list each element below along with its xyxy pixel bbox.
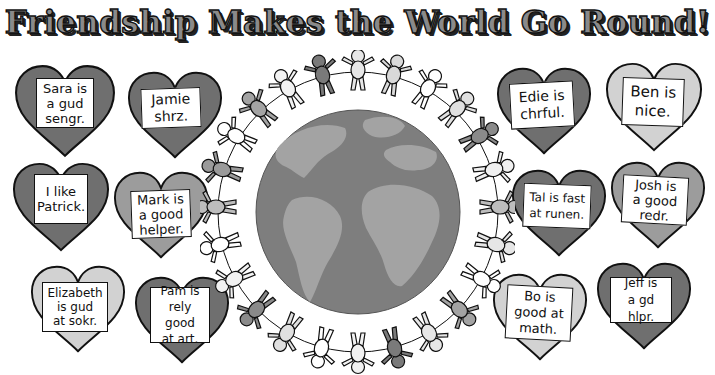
heart-elizabeth: Elizabeth is gud at sokr. — [30, 262, 126, 356]
note-card: Josh is a good redr. — [621, 174, 689, 225]
banner-title: Friendship Makes the World Go Round! — [0, 4, 715, 40]
note-card: Mark is a good helper. — [130, 189, 192, 239]
heart-josh: Josh is a good redr. — [610, 158, 706, 252]
note-card: Tal is fast at runen. — [522, 183, 591, 229]
note-card: Sara is a gud sengr. — [36, 78, 94, 128]
heart-ben: Ben is nice. — [605, 60, 703, 154]
heart-jeff: Jeff is a gd hlpr. — [596, 259, 692, 353]
globe-with-people — [200, 50, 515, 375]
heart-sara: Sara is a gud sengr. — [14, 64, 116, 158]
heart-tal: Tal is fast at runen. — [511, 166, 607, 260]
note-card: Edie is chrful. — [509, 80, 575, 129]
globe-icon — [200, 50, 515, 375]
note-card: Elizabeth is gud at sokr. — [42, 282, 108, 332]
note-card: Jeff is a gd hlpr. — [610, 277, 672, 323]
note-card: I like Patrick. — [34, 174, 88, 224]
heart-mark: Mark is a good helper. — [113, 168, 209, 262]
note-card: Jamie shrz. — [140, 87, 201, 129]
heart-patrick: I like Patrick. — [12, 160, 110, 254]
note-card: Ben is nice. — [621, 77, 685, 127]
